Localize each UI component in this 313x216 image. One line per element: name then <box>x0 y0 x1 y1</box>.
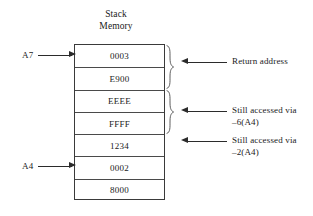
annotation-minus-2-line-1: Still accessed via <box>232 135 297 147</box>
annotation-accessed-via-minus-2-a4: Still accessed via –2(A4) <box>181 135 297 158</box>
stack-cell-5-value: 0002 <box>110 163 129 173</box>
diagram-title-line-2: Memory <box>78 21 154 33</box>
stack-memory-diagram: Stack Memory 0003 E900 EEEE FFFF 1234 00… <box>0 0 313 216</box>
annotation-minus-6-line-2: –6(A4) <box>232 117 297 129</box>
stack-cell-5: 0002 <box>75 156 164 178</box>
stack-cell-0-value: 0003 <box>110 51 129 61</box>
register-label-a4: A4 <box>22 161 34 171</box>
annotation-accessed-via-minus-2-a4-text: Still accessed via –2(A4) <box>232 135 297 158</box>
arrow-left-icon <box>181 57 227 68</box>
annotation-minus-6-line-1: Still accessed via <box>232 105 297 117</box>
stack-cell-1: E900 <box>75 67 164 89</box>
arrow-left-icon <box>181 136 227 147</box>
arrow-right-icon <box>38 166 78 167</box>
stack-cell-3: FFFF <box>75 112 164 134</box>
stack-cell-6: 8000 <box>75 179 164 201</box>
stack-cell-2: EEEE <box>75 90 164 112</box>
annotation-return-address-line-1: Return address <box>232 56 288 68</box>
stack-cell-0: 0003 <box>75 45 164 67</box>
stack-cell-4-value: 1234 <box>110 141 129 151</box>
register-label-a7: A7 <box>22 50 34 60</box>
annotation-minus-2-line-2: –2(A4) <box>232 147 297 159</box>
stack-box: 0003 E900 EEEE FFFF 1234 0002 8000 <box>74 44 165 200</box>
register-pointer-a7: A7 <box>22 48 78 62</box>
annotation-return-address-text: Return address <box>232 56 288 68</box>
stack-cell-1-value: E900 <box>109 74 129 84</box>
annotation-return-address: Return address <box>181 56 288 68</box>
brace-return-address <box>166 45 175 89</box>
arrow-right-icon <box>38 55 78 56</box>
stack-cell-6-value: 8000 <box>110 185 129 195</box>
annotation-accessed-via-minus-6-a4: Still accessed via –6(A4) <box>181 105 297 128</box>
brace-local-variable <box>166 90 175 134</box>
register-pointer-a4: A4 <box>22 159 78 173</box>
stack-cell-4: 1234 <box>75 134 164 156</box>
diagram-title: Stack Memory <box>78 9 154 32</box>
annotation-accessed-via-minus-6-a4-text: Still accessed via –6(A4) <box>232 105 297 128</box>
arrow-left-icon <box>181 106 227 117</box>
diagram-title-line-1: Stack <box>78 9 154 21</box>
stack-cell-2-value: EEEE <box>108 96 131 106</box>
stack-cell-3-value: FFFF <box>109 119 130 129</box>
